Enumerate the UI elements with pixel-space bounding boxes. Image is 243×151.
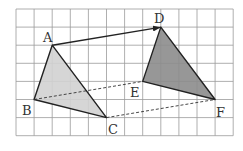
label-d: D bbox=[154, 11, 164, 26]
label-c: C bbox=[108, 122, 118, 137]
label-a: A bbox=[42, 30, 53, 45]
label-f: F bbox=[216, 105, 225, 120]
translation-diagram: A B C D E F bbox=[0, 0, 243, 151]
translation-arrow bbox=[52, 27, 160, 45]
label-e: E bbox=[130, 85, 140, 100]
label-b: B bbox=[22, 103, 32, 118]
